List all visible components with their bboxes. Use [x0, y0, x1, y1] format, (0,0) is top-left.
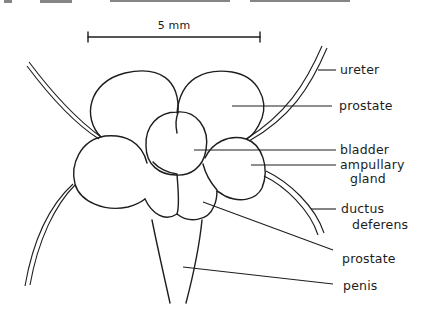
label-ampullary: ampullary [340, 157, 405, 172]
scale-bar-label: 5 mm [158, 19, 191, 32]
label-ureter: ureter [340, 62, 380, 77]
penis [152, 220, 202, 303]
ampullary-gland-lobe [205, 138, 265, 200]
scale-bar: 5 mm [88, 19, 260, 42]
label-bladder: bladder [340, 142, 390, 157]
ductus-deferens-right [264, 171, 324, 235]
prostate-lobe-lower-left [145, 162, 179, 217]
label-gland: gland [350, 171, 386, 186]
prostate-lobe-lower-right [177, 164, 217, 220]
prostate-lobe-upper-left [90, 71, 178, 137]
prostate-lobe-upper-right [177, 71, 264, 139]
label-ductus: ductus [341, 201, 384, 216]
label-prostate-upper: prostate [339, 98, 393, 113]
reproductive-anatomy-diagram: 5 mm ureter prostate bladder [0, 0, 430, 319]
ureter-left [27, 62, 101, 139]
leader-penis [183, 267, 333, 284]
prostate-lobe-left [74, 136, 147, 209]
label-deferens: deferens [352, 217, 408, 232]
label-penis: penis [343, 278, 378, 293]
cropped-caption-fragment [4, 0, 350, 3]
label-prostate-lower: prostate [342, 251, 396, 266]
ductus-deferens-left [25, 184, 75, 286]
